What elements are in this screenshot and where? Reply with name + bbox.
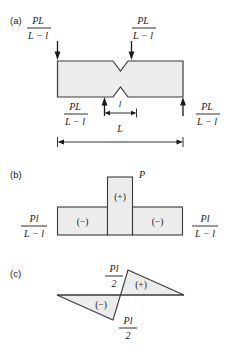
dimension-notch-width: l [105,99,137,118]
load-bottom-right-denominator: L − l [196,116,217,127]
dimension-span-label: L [116,123,123,134]
moment-upper-value-denominator: 2 [112,278,117,289]
load-top-left-denominator: L − l [27,30,48,41]
load-bottom-left-label: PL L − l [64,101,88,127]
moment-right-sign: (+) [135,280,147,291]
shear-left-value-denominator: L − l [23,228,44,239]
shear-block-right-sign: (−) [152,217,164,228]
shear-right-value-label: Pl L − l [192,213,218,239]
shear-left-value-numerator: Pl [29,213,39,224]
panel-c-label: (c) [10,268,21,279]
engineering-figure: (a) PL L − l PL L − l [0,0,234,357]
load-top-right-label: PL L − l [132,15,156,41]
notched-beam-body [58,61,184,97]
shear-block-center [108,177,133,235]
load-arrow-top-right-icon [129,41,135,60]
load-top-right-numerator: PL [136,15,149,26]
shear-peak-label: P [138,169,145,180]
shear-left-value-label: Pl L − l [21,213,47,239]
dimension-notch-width-label: l [119,99,122,109]
moment-left-triangle [57,295,121,320]
load-bottom-right-numerator: PL [200,101,213,112]
load-bottom-left-numerator: PL [68,101,81,112]
panel-b: (b) (−) (+) (−) P Pl L − l Pl L − l [10,169,218,239]
shear-right-value-denominator: L − l [194,228,215,239]
load-top-right-denominator: L − l [132,30,153,41]
load-top-left-numerator: PL [31,15,44,26]
load-bottom-left-denominator: L − l [64,116,85,127]
panel-a-label: (a) [10,15,22,26]
panel-a: (a) PL L − l PL L − l [10,15,220,147]
load-top-left-label: PL L − l [27,15,51,41]
figure-canvas: (a) PL L − l PL L − l [0,0,234,357]
shear-block-center-sign: (+) [114,192,126,203]
load-arrow-bottom-right-icon [180,97,186,116]
panel-c: (c) (−) (+) Pl 2 Pl 2 [10,263,184,341]
moment-upper-value-label: Pl 2 [105,263,123,289]
moment-right-triangle [121,270,185,295]
moment-upper-value-numerator: Pl [109,263,119,274]
moment-left-sign: (−) [95,300,107,311]
shear-block-left-sign: (−) [77,217,89,228]
shear-right-value-numerator: Pl [200,213,210,224]
moment-lower-value-label: Pl 2 [119,315,137,341]
load-arrow-top-left-icon [55,41,61,60]
moment-lower-value-denominator: 2 [126,330,131,341]
panel-b-label: (b) [10,169,22,180]
moment-lower-value-numerator: Pl [123,315,133,326]
load-bottom-right-label: PL L − l [196,101,220,127]
